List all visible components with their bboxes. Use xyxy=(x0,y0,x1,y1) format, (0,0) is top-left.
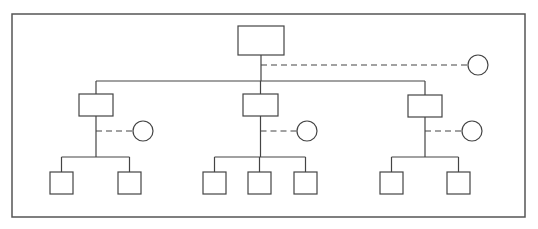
leaf-node-box xyxy=(203,172,226,194)
leaf-node-box xyxy=(380,172,403,194)
leaf-node-box xyxy=(294,172,317,194)
leaf-node-box xyxy=(447,172,470,194)
leaf-node-box xyxy=(50,172,73,194)
root-node-box xyxy=(238,26,284,55)
leaf-node-box xyxy=(248,172,271,194)
mid-left-aux-circle-node xyxy=(133,121,153,141)
mid-right-aux-circle-node xyxy=(462,121,482,141)
mid-node-box xyxy=(408,95,442,117)
mid-node-box xyxy=(243,94,278,116)
mid-node-box xyxy=(79,94,113,116)
root-aux-circle-node xyxy=(468,55,488,75)
mid-center-aux-circle-node xyxy=(297,121,317,141)
hierarchy-diagram xyxy=(0,0,538,229)
leaf-node-box xyxy=(118,172,141,194)
